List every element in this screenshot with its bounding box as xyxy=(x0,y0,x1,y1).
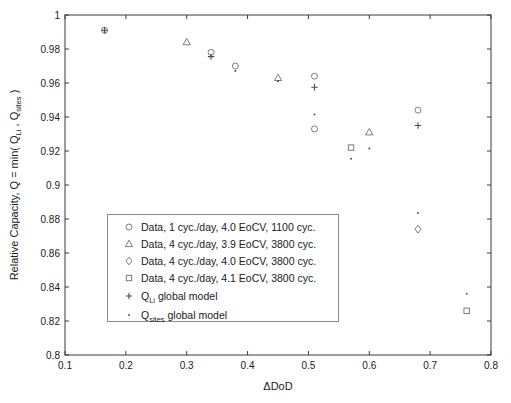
x-tick-label: 0.4 xyxy=(241,360,255,371)
y-tick-label: 0.94 xyxy=(41,112,61,123)
dot-marker-icon xyxy=(123,309,135,321)
y-tick-label: 0.98 xyxy=(41,44,61,55)
data-point-diamond xyxy=(126,257,132,265)
legend-label-text: Q xyxy=(141,309,149,321)
diamond-marker-icon xyxy=(123,255,135,267)
data-point-circle xyxy=(312,126,318,132)
x-tick-label: 0.6 xyxy=(362,360,376,371)
plus-marker-icon xyxy=(123,290,135,302)
y-tick-label: 0.8 xyxy=(46,350,60,361)
y-tick-label: 0.9 xyxy=(46,180,60,191)
data-point-triangle xyxy=(274,74,281,80)
x-tick-label: 0.2 xyxy=(119,360,133,371)
y-axis-label-subscript: Li xyxy=(14,130,23,136)
circle-marker-icon xyxy=(123,221,135,233)
legend-label-text: Q xyxy=(141,290,149,302)
data-point-dot xyxy=(368,147,370,149)
data-point-dot xyxy=(104,31,106,33)
data-point-triangle xyxy=(125,240,132,246)
data-point-square xyxy=(126,275,131,280)
y-tick-label: 0.88 xyxy=(41,214,61,225)
data-point-dot xyxy=(466,293,468,295)
data-point-triangle xyxy=(183,38,190,44)
legend-item: Data, 4 cyc./day, 4.1 EoCV, 3800 cyc. xyxy=(108,269,338,286)
figure-canvas: 0.10.20.30.40.50.60.70.80.80.820.840.860… xyxy=(0,0,511,403)
legend-label-text: Data, 1 cyc./day, 4.0 EoCV, 1100 cyc. xyxy=(141,221,315,233)
x-tick-label: 0.8 xyxy=(484,360,498,371)
data-point-dot xyxy=(128,314,130,316)
legend-item-label: Data, 1 cyc./day, 4.0 EoCV, 1100 cyc. xyxy=(141,221,315,233)
legend-label-text: Data, 4 cyc./day, 4.1 EoCV, 3800 cyc. xyxy=(141,272,316,284)
y-tick-label: 0.84 xyxy=(41,282,61,293)
y-tick-label: 0.92 xyxy=(41,146,61,157)
data-point-dot xyxy=(234,70,236,72)
y-axis-label-subscript: sites xyxy=(14,96,23,111)
legend-item-label: Data, 4 cyc./day, 4.1 EoCV, 3800 cyc. xyxy=(141,272,316,284)
y-axis-label-text: Relative Capacity, Q = min( Q xyxy=(8,135,20,280)
legend-label-text: global model xyxy=(165,309,227,321)
data-point-dot xyxy=(277,80,279,82)
data-point-square xyxy=(464,308,469,313)
legend-box: Data, 1 cyc./day, 4.0 EoCV, 1100 cyc.Dat… xyxy=(107,214,339,322)
square-marker-icon xyxy=(123,272,135,284)
legend-label-text: global model xyxy=(155,290,217,302)
legend-item-label: Data, 4 cyc./day, 3.9 EoCV, 3800 cyc. xyxy=(141,238,316,250)
data-point-circle xyxy=(312,73,318,79)
x-tick-label: 0.7 xyxy=(423,360,437,371)
y-axis-label: Relative Capacity, Q = min( QLi , Qsites… xyxy=(8,90,20,281)
legend-label-text: Data, 4 cyc./day, 4.0 EoCV, 3800 cyc. xyxy=(141,255,316,267)
y-axis-label-text: ) xyxy=(8,90,20,97)
legend-item: QLi global model xyxy=(108,286,338,305)
triangle-marker-icon xyxy=(123,238,135,250)
x-tick-label: 0.5 xyxy=(301,360,315,371)
data-point-circle xyxy=(415,107,421,113)
legend-label-subscript: sites xyxy=(149,315,164,324)
legend-item: Qsites global model xyxy=(108,305,338,324)
data-point-plus xyxy=(415,122,421,128)
y-tick-label: 1 xyxy=(54,10,60,21)
data-point-diamond xyxy=(415,225,421,233)
data-point-circle xyxy=(126,224,132,230)
x-axis-label: ΔDoD xyxy=(263,380,292,392)
data-point-circle xyxy=(232,63,238,69)
legend-item: Data, 4 cyc./day, 4.0 EoCV, 3800 cyc. xyxy=(108,252,338,269)
plot-area: 0.10.20.30.40.50.60.70.80.80.820.840.860… xyxy=(0,0,511,403)
data-point-plus xyxy=(126,292,132,298)
y-tick-label: 0.86 xyxy=(41,248,61,259)
y-axis-label-text: , Q xyxy=(8,112,20,130)
x-tick-label: 0.1 xyxy=(58,360,72,371)
data-point-dot xyxy=(314,113,316,115)
data-point-plus xyxy=(311,84,317,90)
legend-item-label: Qsites global model xyxy=(141,309,227,321)
data-point-square xyxy=(348,145,353,150)
legend-item: Data, 4 cyc./day, 3.9 EoCV, 3800 cyc. xyxy=(108,235,338,252)
legend-item: Data, 1 cyc./day, 4.0 EoCV, 1100 cyc. xyxy=(108,218,338,235)
data-point-dot xyxy=(350,158,352,160)
y-tick-label: 0.82 xyxy=(41,316,61,327)
x-tick-label: 0.3 xyxy=(180,360,194,371)
data-point-dot xyxy=(417,212,419,214)
legend-item-label: QLi global model xyxy=(141,290,217,302)
data-point-triangle xyxy=(366,129,373,135)
legend-label-text: Data, 4 cyc./day, 3.9 EoCV, 3800 cyc. xyxy=(141,238,316,250)
y-tick-label: 0.96 xyxy=(41,78,61,89)
legend-item-label: Data, 4 cyc./day, 4.0 EoCV, 3800 cyc. xyxy=(141,255,316,267)
